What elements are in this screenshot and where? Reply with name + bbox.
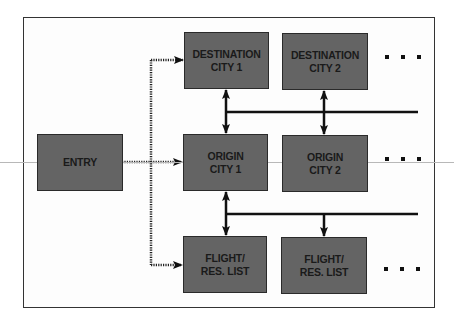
- flight-list-2-node[interactable]: FLIGHT/ RES. LIST: [281, 237, 367, 294]
- lower-bus-connector: [226, 192, 418, 236]
- diagram-canvas: ENTRY DESTINATION CITY 1 DESTINATION CIT…: [0, 0, 454, 322]
- origin-row-ellipsis: [384, 151, 424, 167]
- destination-city-1-node[interactable]: DESTINATION CITY 1: [184, 32, 269, 89]
- origin-city-2-node[interactable]: ORIGIN CITY 2: [282, 135, 368, 192]
- destination-row-ellipsis: [384, 49, 424, 65]
- flight-row-ellipsis: [383, 261, 423, 277]
- destination-city-2-node[interactable]: DESTINATION CITY 2: [282, 33, 368, 90]
- origin-city-1-node[interactable]: ORIGIN CITY 1: [183, 134, 268, 191]
- flight-list-1-node[interactable]: FLIGHT/ RES. LIST: [183, 236, 267, 293]
- upper-bus-connector: [226, 90, 418, 134]
- entry-node[interactable]: ENTRY: [37, 134, 123, 191]
